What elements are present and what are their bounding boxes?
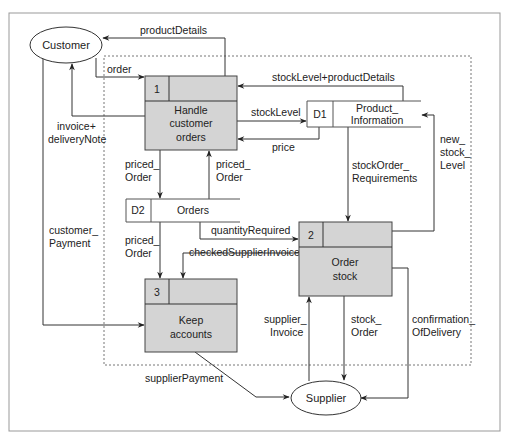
- flow-label: order: [107, 63, 132, 75]
- entity-customer[interactable]: Customer: [30, 27, 102, 63]
- process-number: 2: [308, 229, 314, 241]
- process-keep-accounts[interactable]: 3 Keep accounts: [145, 279, 237, 352]
- flow-label: Invoice: [270, 326, 303, 338]
- flow-label: priced_: [216, 158, 251, 170]
- flow-label: new_: [440, 133, 465, 145]
- flow-label: supplier_: [264, 313, 307, 325]
- flow-quantityRequired: quantityRequired: [200, 222, 298, 239]
- data-flow-diagram: productDetails order invoice+ deliveryNo…: [0, 0, 511, 442]
- entity-label: Supplier: [306, 392, 347, 404]
- flow-label: stockLevel: [251, 106, 301, 118]
- flow-label: stock_: [440, 146, 471, 158]
- entity-supplier[interactable]: Supplier: [291, 381, 361, 415]
- flow-label: Order: [216, 171, 243, 183]
- datastore-code: D1: [313, 108, 327, 120]
- datastore-product-information[interactable]: D1 Product_ Information: [307, 101, 421, 127]
- flow-label: Level: [440, 159, 465, 171]
- flow-label: priced_: [125, 234, 160, 246]
- process-number: 1: [154, 83, 160, 95]
- flow-label: invoice+: [57, 120, 96, 132]
- flow-checkedSupplierInvoice: checkedSupplierInvoice: [183, 246, 300, 278]
- flow-label: supplierPayment: [145, 372, 223, 384]
- flow-label: confirmation_: [412, 313, 475, 325]
- process-label: accounts: [170, 328, 212, 340]
- flow-label: stockLevel+productDetails: [272, 71, 395, 83]
- process-order-stock[interactable]: 2 Order stock: [299, 222, 392, 296]
- flow-price: price: [238, 127, 319, 153]
- flow-label: price: [272, 141, 295, 153]
- process-label: Handle: [174, 104, 207, 116]
- flow-stockLevel-productDetails: stockLevel+productDetails: [238, 71, 403, 101]
- flow-label: Payment: [49, 237, 91, 249]
- flow-label: quantityRequired: [211, 224, 291, 236]
- process-label: orders: [176, 131, 206, 143]
- process-label: Order: [332, 256, 359, 268]
- flow-stockLevel: stockLevel: [237, 106, 306, 121]
- process-handle-customer-orders[interactable]: 1 Handle customer orders: [145, 76, 237, 150]
- flow-label: Order: [125, 171, 152, 183]
- flow-label: priced_: [125, 158, 160, 170]
- entity-label: Customer: [42, 39, 90, 51]
- datastore-label: Orders: [177, 204, 209, 216]
- flow-supplierPayment: supplierPayment: [145, 352, 289, 397]
- flow-label: Order: [125, 247, 152, 259]
- flow-priced-Order-down: priced_ Order: [125, 150, 160, 198]
- datastore-code: D2: [131, 204, 145, 216]
- process-label: stock: [333, 270, 358, 282]
- flow-label: customer_: [49, 224, 98, 236]
- flow-label: deliveryNote: [48, 133, 107, 145]
- process-label: customer: [169, 117, 213, 129]
- flow-label: stockOrder_: [352, 159, 409, 171]
- process-label: Keep: [179, 314, 204, 326]
- datastore-orders[interactable]: D2 Orders: [126, 199, 240, 222]
- flow-stock-Order: stock_ Order: [344, 296, 382, 380]
- flow-priced-Order-to-keep-accounts: priced_ Order: [125, 222, 160, 278]
- flow-label: Requirements: [352, 172, 417, 184]
- flow-priced-Order-up: priced_ Order: [209, 151, 251, 199]
- datastore-label: Information: [351, 114, 404, 126]
- datastore-label: Product_: [356, 102, 398, 114]
- flow-stockOrder-Requirements: stockOrder_ Requirements: [348, 127, 417, 221]
- flow-label: stock_: [351, 313, 382, 325]
- process-number: 3: [154, 286, 160, 298]
- flow-order: order: [96, 58, 144, 77]
- flow-label: Order: [351, 326, 378, 338]
- flow-label: OfDelivery: [412, 326, 462, 338]
- flow-supplier-Invoice: supplier_ Invoice: [264, 297, 309, 381]
- flow-customer-Payment: customer_ Payment: [43, 57, 144, 325]
- outer-frame: [9, 13, 500, 431]
- flow-label: productDetails: [140, 24, 207, 36]
- flow-label: checkedSupplierInvoice: [189, 246, 300, 258]
